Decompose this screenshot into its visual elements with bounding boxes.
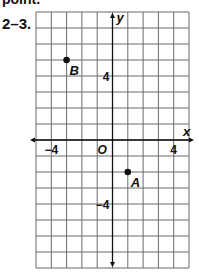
tick-label-y: −4	[96, 198, 110, 212]
origin-label: O	[98, 143, 108, 157]
y-axis-arrow-down-icon	[110, 262, 115, 267]
tick-label-y: 4	[103, 70, 110, 84]
point-label-a: A	[130, 175, 140, 190]
axes	[30, 13, 194, 267]
tick-label-x: −4	[44, 143, 58, 157]
point-label-b: B	[70, 63, 79, 78]
x-axis-arrow-left-icon	[30, 138, 35, 143]
x-axis-label: x	[182, 124, 191, 139]
plotted-points: BA	[63, 57, 140, 190]
y-axis-label: y	[116, 10, 125, 25]
y-axis-arrow-up-icon	[110, 13, 115, 18]
tick-label-x: 4	[170, 143, 177, 157]
coordinate-plane: xyO−444−4 BA	[0, 0, 199, 273]
